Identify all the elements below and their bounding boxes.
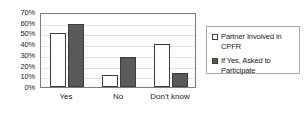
x-axis-tick-label: No [113, 92, 123, 102]
y-axis-tick-label: 0% [25, 84, 35, 92]
bar-group [41, 14, 93, 87]
bar-chart: 0%10%20%30%40%50%60%70% YesNoDon't know … [0, 0, 304, 116]
y-axis-tick-label: 30% [21, 52, 35, 60]
bar [120, 57, 136, 87]
legend-item: If Yes, Asked to Participate [212, 56, 295, 75]
legend-item: Partner Involved in CPFR [212, 32, 295, 51]
y-axis-tick-label: 10% [21, 74, 35, 82]
y-axis-tick-label: 40% [21, 41, 35, 49]
x-axis-tick-label: Don't know [150, 92, 189, 102]
bar-group [93, 14, 145, 87]
legend-item-label: Partner Involved in CPFR [221, 32, 295, 51]
y-axis-tick-label: 20% [21, 63, 35, 71]
bar [50, 33, 66, 87]
bar [102, 75, 118, 87]
y-axis: 0%10%20%30%40%50%60%70% [0, 13, 38, 88]
y-axis-tick-label: 60% [21, 20, 35, 28]
plot-area [40, 13, 196, 88]
bar [68, 24, 84, 87]
x-axis: YesNoDon't know [40, 92, 196, 106]
legend-swatch-icon [212, 58, 218, 64]
legend-swatch-icon [212, 34, 218, 40]
bar [172, 73, 188, 87]
y-axis-tick-label: 50% [21, 31, 35, 39]
y-axis-tick-label: 70% [21, 9, 35, 17]
bar-group [145, 14, 197, 87]
legend-item-label: If Yes, Asked to Participate [221, 56, 295, 75]
bar [154, 44, 170, 87]
x-axis-tick-label: Yes [59, 92, 72, 102]
chart-legend: Partner Involved in CPFRIf Yes, Asked to… [206, 26, 300, 74]
plot-inner [41, 14, 195, 87]
